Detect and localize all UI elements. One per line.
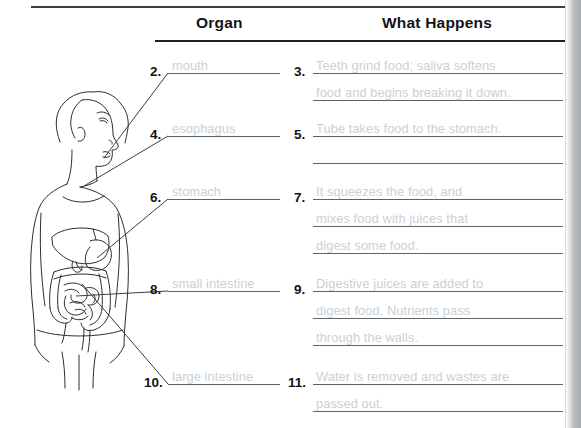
organ-answer-line-6[interactable]	[168, 199, 280, 200]
organ-item-number-6: 6.	[150, 190, 161, 205]
organ-answer-text-10[interactable]: large intestine	[172, 369, 253, 384]
organ-answer-line-8[interactable]	[168, 291, 280, 292]
what-answer-text-9-line-3[interactable]: through the walls.	[316, 330, 418, 345]
organ-answer-line-10[interactable]	[168, 384, 280, 385]
column-header-what-happens: What Happens	[382, 14, 492, 32]
what-item-number-3: 3.	[294, 64, 305, 79]
what-answer-text-11-line-2[interactable]: passed out.	[316, 396, 383, 411]
what-answer-line-7-1[interactable]	[313, 199, 563, 200]
organ-answer-text-4[interactable]: esophagus	[172, 121, 236, 136]
organ-answer-line-2[interactable]	[168, 73, 280, 74]
what-answer-line-11-1[interactable]	[313, 384, 563, 385]
what-answer-line-5-2[interactable]	[313, 163, 563, 164]
organ-item-number-4: 4.	[150, 127, 161, 142]
what-answer-text-7-line-2[interactable]: mixes food with juices that	[316, 211, 468, 226]
what-answer-text-7-line-1[interactable]: It squeezes the food, and	[316, 184, 462, 199]
what-item-number-5: 5.	[294, 127, 305, 142]
what-answer-line-5-1[interactable]	[313, 136, 563, 137]
what-item-number-7: 7.	[294, 190, 305, 205]
what-answer-text-3-line-2[interactable]: food and begins breaking it down.	[316, 85, 511, 100]
what-answer-line-11-2[interactable]	[313, 411, 563, 412]
organ-item-number-10: 10.	[144, 375, 163, 390]
what-answer-text-9-line-1[interactable]: Digestive juices are added to	[316, 276, 483, 291]
what-answer-text-5-line-1[interactable]: Tube takes food to the stomach.	[316, 121, 501, 136]
what-answer-text-11-line-1[interactable]: Water is removed and wastes are	[316, 369, 509, 384]
what-answer-line-3-1[interactable]	[313, 73, 563, 74]
what-answer-line-9-2[interactable]	[313, 318, 563, 319]
what-item-number-9: 9.	[294, 282, 305, 297]
page-edge-shadow	[566, 0, 581, 428]
worksheet-page: Organ What Happens	[0, 0, 581, 428]
what-answer-text-7-line-3[interactable]: digest some food.	[316, 238, 419, 253]
organ-item-number-2: 2.	[150, 64, 161, 79]
what-item-number-11: 11.	[288, 375, 306, 390]
what-answer-line-7-2[interactable]	[313, 226, 563, 227]
column-header-organ: Organ	[196, 14, 243, 32]
organ-answer-text-6[interactable]: stomach	[172, 184, 221, 199]
what-answer-text-3-line-1[interactable]: Teeth grind food; saliva softens	[316, 58, 496, 73]
what-answer-line-9-3[interactable]	[313, 345, 563, 346]
organ-answer-line-4[interactable]	[168, 136, 280, 137]
what-answer-line-9-1[interactable]	[313, 291, 563, 292]
what-answer-line-7-3[interactable]	[313, 253, 563, 254]
what-answer-text-9-line-2[interactable]: digest food. Nutrients pass	[316, 303, 470, 318]
top-rule	[31, 6, 566, 8]
organ-answer-text-2[interactable]: mouth	[172, 58, 208, 73]
what-answer-line-3-2[interactable]	[313, 100, 563, 101]
organ-answer-text-8[interactable]: small intestine	[172, 276, 255, 291]
header-underline	[155, 40, 566, 42]
organ-item-number-8: 8.	[150, 282, 161, 297]
